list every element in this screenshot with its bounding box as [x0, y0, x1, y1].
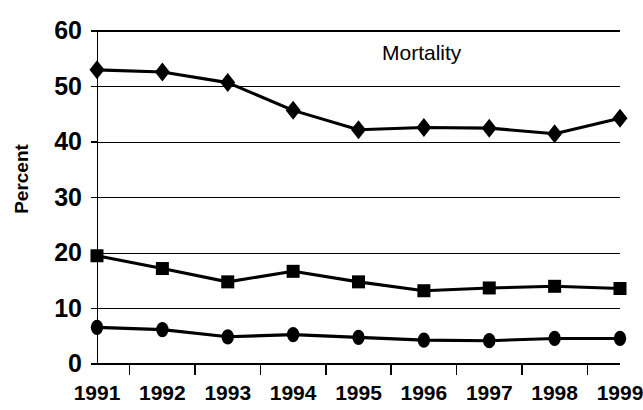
x-tick-label: 1996 [401, 381, 448, 405]
y-axis-tick-labels: 0102030405060 [0, 0, 82, 410]
data-point-circle [548, 331, 560, 346]
y-tick-label: 50 [38, 74, 82, 99]
data-point-diamond [286, 101, 301, 120]
data-point-diamond [155, 63, 170, 82]
y-tick-label: 10 [38, 296, 82, 321]
data-point-diamond [482, 119, 497, 138]
data-point-square [156, 262, 169, 275]
data-point-square [483, 281, 496, 294]
data-point-circle [614, 331, 626, 346]
x-axis-tick-labels: 199119921993199419951996199719981999 [97, 381, 625, 409]
x-tick-label: 1994 [270, 381, 317, 405]
data-point-diamond [220, 73, 235, 92]
chart-title: Mortality [382, 41, 461, 65]
y-tick-label: 40 [38, 129, 82, 154]
data-point-diamond [351, 120, 366, 139]
y-tick-label: 60 [38, 18, 82, 43]
data-point-circle [91, 320, 103, 335]
x-tick-label: 1997 [466, 381, 513, 405]
plot-svg [97, 31, 620, 364]
data-point-square [221, 275, 234, 288]
data-point-diamond [613, 109, 628, 128]
data-point-diamond [416, 118, 431, 137]
data-point-square [548, 280, 561, 293]
x-tick-label: 1993 [204, 381, 251, 405]
y-tick-label: 20 [38, 240, 82, 265]
x-tick-label: 1992 [139, 381, 186, 405]
data-point-circle [222, 329, 234, 344]
series-circle [91, 320, 626, 349]
y-tick-label: 0 [38, 351, 82, 376]
y-tick-label: 30 [38, 185, 82, 210]
x-tick-label: 1995 [335, 381, 382, 405]
data-point-circle [418, 333, 430, 348]
x-tick-label: 1991 [74, 381, 121, 405]
data-point-diamond [90, 60, 105, 79]
data-point-circle [352, 330, 364, 345]
data-point-square [287, 265, 300, 278]
data-point-square [91, 249, 104, 262]
plot-area [97, 31, 620, 364]
data-point-square [417, 284, 430, 297]
x-tick-label: 1998 [531, 381, 578, 405]
x-tick-label: 1999 [597, 381, 643, 405]
data-point-square [352, 275, 365, 288]
series-square [91, 249, 627, 297]
series-diamond [90, 60, 628, 143]
data-point-circle [287, 327, 299, 342]
data-point-circle [483, 333, 495, 348]
data-point-square [614, 282, 627, 295]
data-point-circle [156, 322, 168, 337]
data-point-diamond [547, 124, 562, 143]
